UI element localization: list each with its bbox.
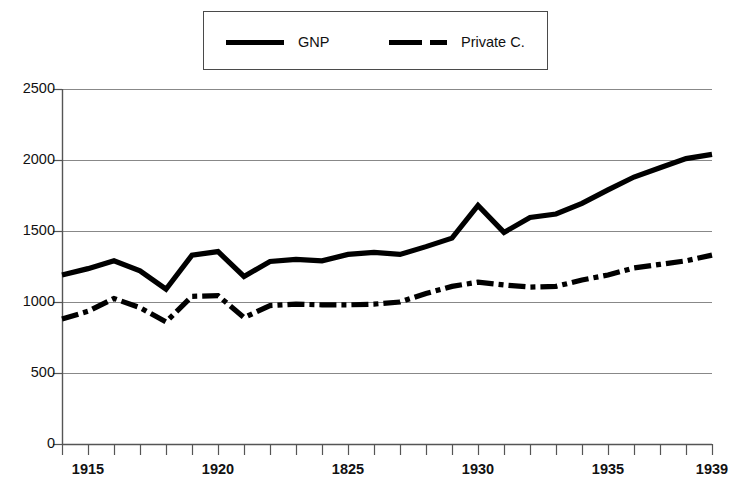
x-axis-labels: 191519201825193019351939 xyxy=(0,0,741,493)
x-axis-tick-label: 1825 xyxy=(332,462,364,477)
x-axis-tick-label: 1935 xyxy=(592,462,624,477)
x-axis-tick-label: 1920 xyxy=(202,462,234,477)
x-axis-tick-label: 1930 xyxy=(462,462,494,477)
x-axis-tick-label: 1915 xyxy=(72,462,104,477)
chart-container: GNP Private C. 25002000150010005000 1915… xyxy=(0,0,741,493)
plot-area: 25002000150010005000 1915192018251930193… xyxy=(0,0,741,493)
x-axis-tick-label: 1939 xyxy=(696,462,728,477)
